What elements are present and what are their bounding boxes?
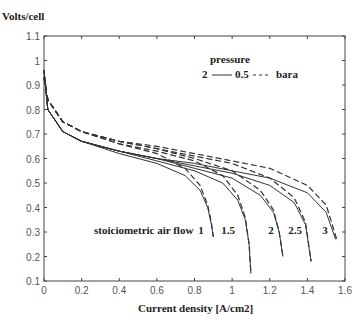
y-tick-label: 0.3: [26, 227, 40, 238]
x-tick-label: 1.2: [263, 285, 277, 296]
x-axis-label: Current density [A/cm2]: [138, 302, 253, 314]
x-tick-label: 1: [229, 285, 235, 296]
axes-frame: [44, 36, 345, 281]
y-tick-label: 0.4: [26, 203, 40, 214]
stoich-label: 3: [322, 224, 328, 236]
legend-dashed-label: 0.5: [235, 68, 249, 80]
x-tick-label: 0.8: [188, 285, 202, 296]
legend-solid-label: 2: [202, 68, 208, 80]
y-tick-label: 0.9: [26, 80, 40, 91]
y-axis-label: Volts/cell: [2, 10, 44, 22]
polarization-chart: Volts/cell 00.20.40.60.811.21.41.60.10.2…: [0, 0, 363, 325]
stoich-label: 1: [198, 224, 204, 236]
stoich-label: 1.5: [221, 224, 235, 236]
series-line: [44, 70, 251, 273]
y-tick-label: 0.2: [26, 252, 40, 263]
y-tick-label: 0.1: [26, 276, 40, 287]
y-tick-label: 1: [34, 56, 40, 67]
y-tick-label: 0.7: [26, 129, 40, 140]
y-tick-label: 0.5: [26, 178, 40, 189]
series-line: [44, 78, 251, 274]
stoich-annotation: stoiciometric air flow: [94, 224, 193, 236]
stoich-label: 2: [268, 224, 274, 236]
x-tick-label: 0.2: [75, 285, 89, 296]
legend-unit: bara: [276, 68, 299, 80]
y-tick-label: 1.1: [26, 31, 40, 42]
y-tick-label: 0.6: [26, 154, 40, 165]
x-tick-label: 0: [41, 285, 47, 296]
x-tick-label: 0.4: [112, 285, 126, 296]
stoich-labels: 11.522.53: [198, 224, 328, 236]
plot-area: 00.20.40.60.811.21.41.60.10.20.30.40.50.…: [26, 31, 352, 296]
series-line: [44, 78, 213, 237]
x-tick-label: 1.4: [300, 285, 314, 296]
legend: pressure 2 0.5 bara: [202, 53, 299, 80]
stoich-label: 2.5: [288, 224, 302, 236]
x-tick-label: 1.6: [338, 285, 352, 296]
x-tick-label: 0.6: [150, 285, 164, 296]
y-tick-label: 0.8: [26, 105, 40, 116]
legend-title: pressure: [210, 53, 250, 65]
